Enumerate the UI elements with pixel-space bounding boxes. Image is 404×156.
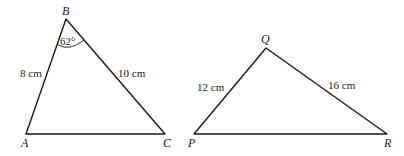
vertex-a-label: A (20, 136, 29, 150)
angle-b-label: 62° (60, 35, 75, 47)
vertex-p-label: P (187, 136, 196, 150)
side-ab-label: 8 cm (20, 67, 42, 79)
side-bc-label: 10 cm (118, 67, 146, 79)
triangle-abc: 62° B A C 8 cm 10 cm (20, 4, 172, 150)
triangles-diagram: 62° B A C 8 cm 10 cm Q P R 12 cm 16 cm (0, 0, 404, 156)
triangle-pqr: Q P R 12 cm 16 cm (187, 32, 392, 150)
vertex-b-label: B (62, 4, 70, 18)
side-pq-label: 12 cm (197, 81, 225, 93)
vertex-q-label: Q (261, 32, 270, 46)
side-qr-label: 16 cm (328, 79, 356, 91)
vertex-r-label: R (383, 136, 392, 150)
vertex-c-label: C (163, 136, 172, 150)
